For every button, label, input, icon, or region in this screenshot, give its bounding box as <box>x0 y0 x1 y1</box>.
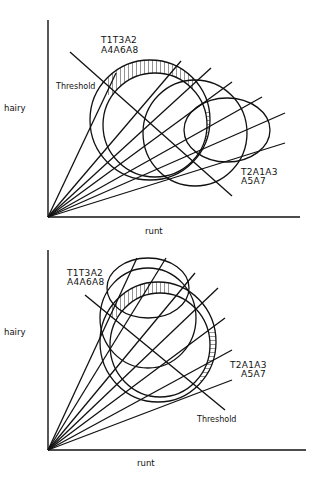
x-axis-label: runt <box>137 458 155 468</box>
threshold-label: Threshold <box>196 415 236 424</box>
group-b-line2: A5A7 <box>241 369 266 379</box>
top-panel: hairy runt Threshold T1T3A2 A4A6A8 T2A1A… <box>4 20 300 236</box>
threshold-label: Threshold <box>55 82 95 91</box>
diagram-canvas: hairy runt Threshold T1T3A2 A4A6A8 T2A1A… <box>0 0 321 486</box>
ellipse-middle <box>143 80 247 186</box>
group-a-line1: T1T3A2 <box>100 35 137 45</box>
group-a-line2: A4A6A8 <box>101 45 138 55</box>
bottom-panel: hairy runt Threshold T1T3A2 A4A6A8 T2A1A… <box>4 250 306 468</box>
y-axis-label: hairy <box>4 103 25 113</box>
threshold-line <box>85 295 225 410</box>
group-b-line2: A5A7 <box>241 176 266 186</box>
x-axis-label: runt <box>145 226 163 236</box>
group-a-line2: A4A6A8 <box>67 277 104 287</box>
y-axis-label: hairy <box>4 327 25 337</box>
ellipse-inner-ring <box>103 73 207 177</box>
